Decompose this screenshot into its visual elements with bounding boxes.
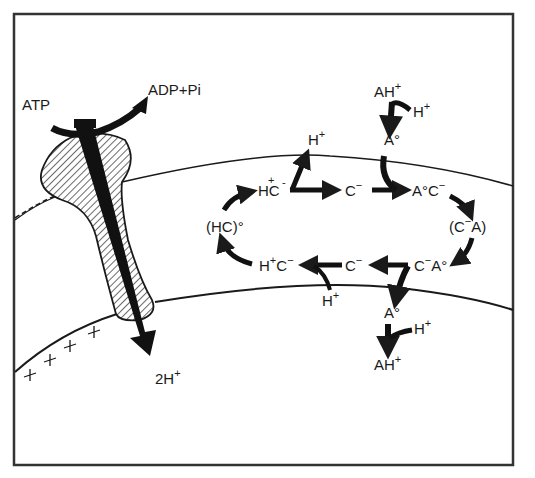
- a0-c-minus-top: A°C−: [412, 179, 445, 199]
- atp-binding-cap: [74, 119, 96, 128]
- positive-charge-marks: [24, 326, 100, 381]
- h-plus-released-top: H+: [308, 128, 325, 148]
- hc-plus-sup: +: [268, 174, 274, 186]
- a0-bottom: A°: [384, 304, 400, 321]
- hc-neutral-node: (HC)°: [206, 218, 244, 235]
- c-minus-top: C−: [345, 179, 362, 199]
- h-plus-uptake-bottom: H+: [322, 289, 339, 309]
- h-plus-top-acceptor: H+: [413, 100, 430, 120]
- arrow-ah-release-h-top: [392, 103, 410, 110]
- two-h-plus-label: 2H+: [155, 367, 181, 387]
- hc-minus-sup: -: [282, 176, 286, 188]
- arrow-hc-neutral-to-hc: [224, 192, 250, 210]
- c-minus-bottom: C−: [345, 254, 362, 274]
- figure-frame: [14, 14, 513, 465]
- c-minus-a-node: (C−A): [449, 215, 486, 235]
- a0-top: A°: [384, 131, 400, 148]
- h-plus-bottom-acceptor: H+: [414, 317, 431, 337]
- arrow-a0c-to-c-a: [450, 196, 470, 214]
- arrow-h-joins-bottom: [390, 330, 412, 338]
- hplus-c-minus-bottom: H+C−: [259, 254, 294, 274]
- atp-label: ATP: [22, 96, 50, 113]
- arrow-h-uptake-joins: [314, 266, 330, 290]
- membrane-inner: [15, 285, 513, 372]
- arrow-hc-release-h: [292, 156, 306, 190]
- adp-pi-label: ADP+Pi: [148, 81, 201, 98]
- ah-plus-top: AH+: [374, 80, 401, 100]
- ah-plus-bottom: AH+: [374, 353, 401, 373]
- c-minus-a0-bottom: C−A°: [414, 254, 447, 274]
- arrow-hplusc-to-hc-neutral: [222, 240, 252, 264]
- arrow-c-a0-release-a0: [396, 266, 408, 300]
- arrow-c-a-to-c-a0: [456, 238, 472, 262]
- diagram-canvas: ATP ADP+Pi 2H+ HC + - C− A°C− H+ (HC)° (…: [0, 0, 535, 478]
- arrow-ah-to-a0-top: [390, 102, 392, 130]
